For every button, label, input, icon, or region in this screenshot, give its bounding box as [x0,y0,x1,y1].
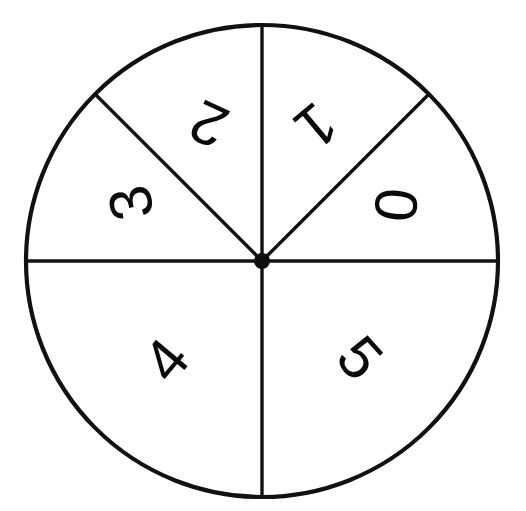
sector-label-0: 0 [361,185,431,224]
spinner-figure: 012345 [0,0,526,511]
wheel-center-hub [254,253,270,269]
spinner-wheel-graphic: 012345 [0,0,526,511]
